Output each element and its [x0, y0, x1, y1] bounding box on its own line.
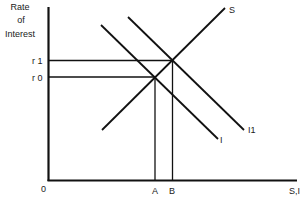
savings-investment-diagram: Rate of Interest r 1 r 0 A B S I I1 0 S,…	[0, 0, 306, 199]
savings-curve-s	[102, 8, 225, 130]
origin-label: 0	[41, 184, 46, 194]
r0-label: r 0	[32, 73, 43, 83]
investment-curve-i	[101, 25, 218, 139]
r1-label: r 1	[32, 56, 43, 66]
x-axis-label: S,I	[289, 186, 300, 196]
s-curve-label: S	[229, 5, 235, 15]
i1-curve-label: I1	[248, 125, 256, 135]
b-label: B	[169, 186, 175, 196]
y-axis-label-line-2: of	[17, 15, 25, 25]
y-axis-label-line-3: Interest	[5, 29, 36, 39]
i-curve-label: I	[220, 135, 223, 145]
y-axis-label-line-1: Rate	[10, 2, 29, 12]
investment-curve-i1	[128, 17, 244, 130]
a-label: A	[152, 186, 158, 196]
